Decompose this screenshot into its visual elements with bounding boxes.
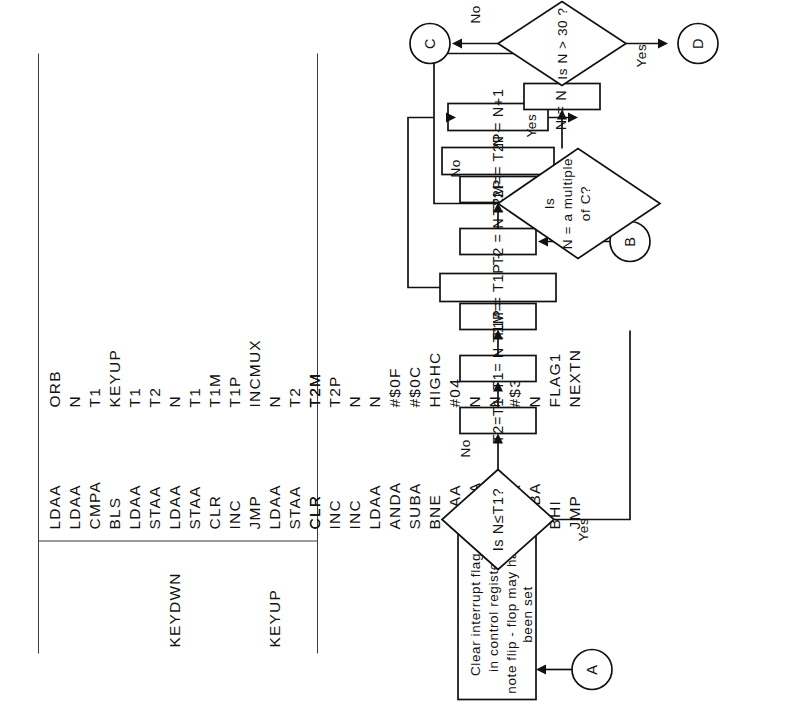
arrowhead — [536, 664, 546, 674]
row-mnemonic: CMPA — [86, 481, 104, 529]
terminal-c-label: C — [422, 37, 438, 48]
row-operand: T2 — [286, 387, 304, 408]
edge-t1p-to-incmux — [408, 117, 440, 287]
row-mnemonic: STAA — [146, 485, 164, 529]
process-start-line4: been set — [520, 586, 535, 643]
row-mnemonic: LDAA — [46, 484, 64, 529]
row-operand: N — [66, 395, 84, 407]
table-row — [44, 53, 68, 353]
row-label: KEYDWN — [166, 572, 184, 647]
row-mnemonic: STAA — [286, 485, 304, 529]
row-label: KEYUP — [266, 588, 284, 647]
row-operand: T2M — [306, 372, 324, 407]
row-mnemonic: INC — [226, 499, 244, 529]
row-operand: T1 — [126, 387, 144, 408]
row-operand: T1M — [206, 372, 224, 407]
process-start-line2: in control register — [486, 557, 501, 672]
process-start-line1: Clear interrupt flag — [468, 552, 483, 675]
decision1-no-label: No — [458, 439, 473, 457]
terminal-d-label: D — [690, 37, 706, 48]
flowchart: A Clear interrupt flag in control regist… — [330, 0, 790, 713]
listing-top-rule — [38, 53, 39, 653]
row-mnemonic: LDAA — [266, 484, 284, 529]
edge-d1-yes — [554, 330, 630, 519]
row-operand: ORB — [46, 370, 64, 407]
row-operand: KEYUP — [106, 348, 124, 407]
arrowhead — [658, 38, 668, 48]
row-mnemonic: LDAA — [166, 484, 184, 529]
row-operand: N — [166, 395, 184, 407]
row-operand: T2 — [146, 387, 164, 408]
decision1-yes-label: Yes — [576, 517, 591, 541]
row-mnemonic: JMP — [246, 494, 264, 529]
page-content: LDAAORB LDAAN CMPAT1 BLSKEYUP LDAAT1 STA… — [0, 0, 792, 713]
row-mnemonic: BLS — [106, 496, 124, 529]
row-mnemonic: CLR — [206, 494, 224, 529]
row-operand: N — [266, 395, 284, 407]
terminal-a-label: A — [584, 664, 600, 674]
decision2-yes-label: Yes — [524, 113, 539, 137]
decision2-no-label: No — [448, 159, 463, 177]
row-operand: T1 — [86, 387, 104, 408]
box-n-increment-label: N = N+1 — [490, 88, 506, 146]
row-operand: INCMUX — [246, 339, 264, 407]
decision2-line1: Is — [542, 197, 557, 209]
decision2-line2: N = a multiple — [560, 157, 575, 248]
row-mnemonic: LDAA — [66, 484, 84, 529]
row-mnemonic: STAA — [186, 485, 204, 529]
decision2-line3: of C? — [578, 185, 593, 220]
row-mnemonic: CLR — [306, 494, 324, 529]
arrowhead — [452, 38, 462, 48]
decision-n-le-t1-label: Is N≤T1? — [490, 487, 506, 551]
scanned-page-stage: LDAAORB LDAAN CMPAT1 BLSKEYUP LDAAT1 STA… — [0, 0, 792, 713]
row-operand: T1 — [186, 387, 204, 408]
decision3-label: Is N > 30 ? — [555, 7, 570, 79]
row-mnemonic: LDAA — [126, 484, 144, 529]
row-operand: T1P — [226, 375, 244, 407]
terminal-b-label: B — [622, 236, 638, 246]
decision3-yes-label: Yes — [634, 43, 649, 67]
arrowhead — [568, 112, 578, 122]
decision3-no-label: No — [468, 5, 483, 23]
